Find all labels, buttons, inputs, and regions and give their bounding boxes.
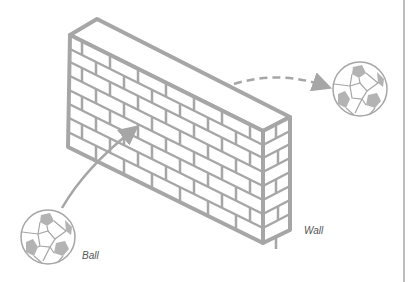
soccer-ball-end-icon xyxy=(333,62,387,116)
outgoing-trajectory-arrow xyxy=(234,77,325,86)
ball-label: Ball xyxy=(82,250,99,261)
soccer-ball-start-icon xyxy=(21,210,75,264)
right-edge-divider xyxy=(403,0,405,282)
brick-wall xyxy=(68,19,290,249)
ball-wall-diagram xyxy=(0,0,408,282)
wall-label: Wall xyxy=(304,225,323,236)
